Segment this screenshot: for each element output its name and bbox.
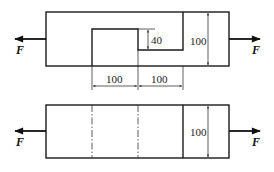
dim-span-left-label: 100 — [106, 73, 123, 85]
top-step-joint-line — [92, 12, 183, 66]
top-figure: 40 100 100 100 F F — [15, 12, 260, 90]
force-left-label: F — [15, 43, 24, 57]
force-right-label: F — [251, 135, 260, 149]
dim-height-bottom-label: 100 — [190, 126, 207, 138]
dim-height-top-label: 100 — [190, 35, 207, 47]
dim-span-right-label: 100 — [151, 73, 168, 85]
force-left-label: F — [15, 135, 24, 149]
force-right-label: F — [251, 43, 260, 57]
diagram-canvas: 40 100 100 100 F F 100 F F — [0, 0, 274, 172]
bottom-figure: 100 F F — [15, 105, 260, 158]
dim-40-label: 40 — [151, 34, 163, 46]
